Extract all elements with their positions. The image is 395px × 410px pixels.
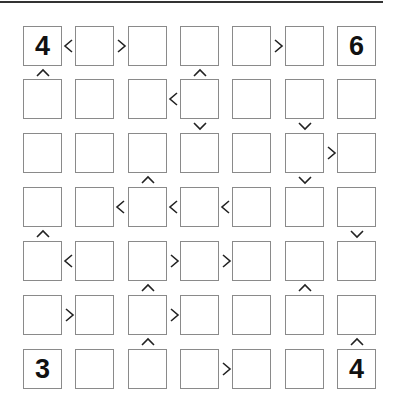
empty-cell[interactable] (23, 295, 62, 335)
empty-cell[interactable] (285, 241, 324, 281)
caret-up-icon (139, 334, 157, 350)
empty-cell[interactable] (75, 133, 114, 173)
empty-cell[interactable] (128, 295, 167, 335)
given-cell: 6 (337, 26, 376, 66)
empty-cell[interactable] (128, 26, 167, 66)
empty-cell[interactable] (23, 241, 62, 281)
empty-cell[interactable] (180, 295, 219, 335)
empty-cell[interactable] (23, 79, 62, 119)
empty-cell[interactable] (23, 133, 62, 173)
empty-cell[interactable] (285, 187, 324, 227)
empty-cell[interactable] (75, 26, 114, 66)
empty-cell[interactable] (23, 187, 62, 227)
greater-than-icon (62, 306, 76, 324)
less-than-icon (114, 198, 128, 216)
caret-up-icon (139, 172, 157, 188)
caret-down-icon (296, 118, 314, 134)
futoshiki-board: 4634 (0, 0, 395, 410)
less-than-icon (167, 198, 181, 216)
empty-cell[interactable] (285, 26, 324, 66)
caret-up-icon (348, 334, 366, 350)
less-than-icon (219, 198, 233, 216)
empty-cell[interactable] (337, 79, 376, 119)
empty-cell[interactable] (180, 26, 219, 66)
caret-up-icon (191, 65, 209, 81)
greater-than-icon (219, 360, 233, 378)
empty-cell[interactable] (75, 349, 114, 389)
empty-cell[interactable] (285, 349, 324, 389)
empty-cell[interactable] (232, 241, 271, 281)
empty-cell[interactable] (75, 295, 114, 335)
given-cell: 3 (23, 349, 62, 389)
empty-cell[interactable] (232, 133, 271, 173)
caret-up-icon (34, 65, 52, 81)
greater-than-icon (167, 306, 181, 324)
less-than-icon (167, 90, 181, 108)
caret-down-icon (296, 172, 314, 188)
empty-cell[interactable] (180, 79, 219, 119)
caret-up-icon (139, 280, 157, 296)
greater-than-icon (114, 37, 128, 55)
empty-cell[interactable] (180, 133, 219, 173)
empty-cell[interactable] (128, 241, 167, 281)
caret-up-icon (34, 226, 52, 242)
given-cell: 4 (337, 349, 376, 389)
empty-cell[interactable] (180, 187, 219, 227)
empty-cell[interactable] (128, 79, 167, 119)
empty-cell[interactable] (337, 241, 376, 281)
empty-cell[interactable] (337, 133, 376, 173)
empty-cell[interactable] (128, 349, 167, 389)
caret-down-icon (348, 226, 366, 242)
empty-cell[interactable] (337, 187, 376, 227)
greater-than-icon (219, 252, 233, 270)
empty-cell[interactable] (285, 133, 324, 173)
less-than-icon (62, 252, 76, 270)
greater-than-icon (167, 252, 181, 270)
empty-cell[interactable] (180, 349, 219, 389)
empty-cell[interactable] (285, 295, 324, 335)
empty-cell[interactable] (232, 295, 271, 335)
empty-cell[interactable] (232, 187, 271, 227)
greater-than-icon (271, 37, 285, 55)
empty-cell[interactable] (232, 349, 271, 389)
empty-cell[interactable] (75, 187, 114, 227)
greater-than-icon (324, 144, 338, 162)
empty-cell[interactable] (337, 295, 376, 335)
empty-cell[interactable] (180, 241, 219, 281)
less-than-icon (62, 37, 76, 55)
empty-cell[interactable] (128, 187, 167, 227)
empty-cell[interactable] (232, 79, 271, 119)
empty-cell[interactable] (75, 241, 114, 281)
empty-cell[interactable] (128, 133, 167, 173)
given-cell: 4 (23, 26, 62, 66)
empty-cell[interactable] (232, 26, 271, 66)
empty-cell[interactable] (285, 79, 324, 119)
caret-down-icon (191, 118, 209, 134)
caret-up-icon (296, 280, 314, 296)
empty-cell[interactable] (75, 79, 114, 119)
